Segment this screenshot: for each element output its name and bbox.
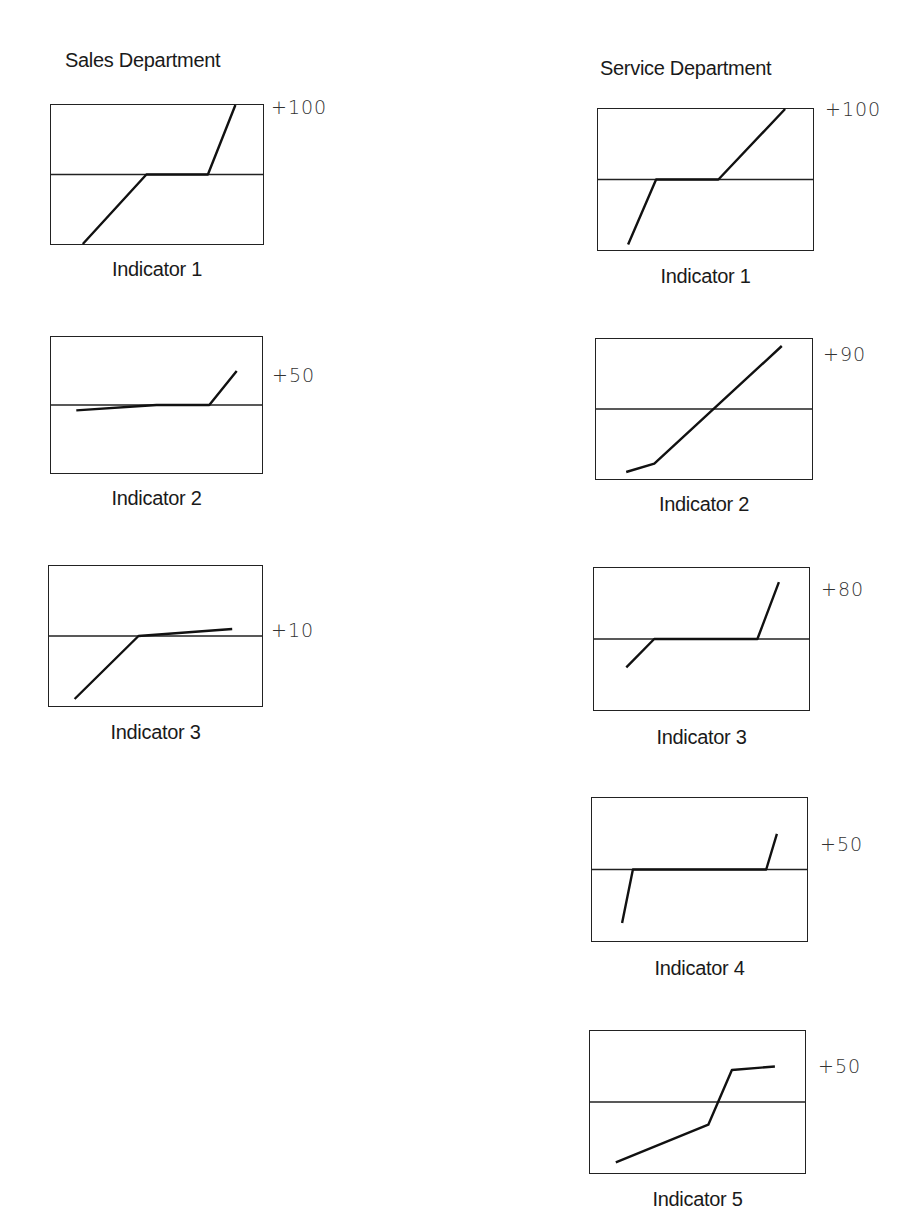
- sales-indicator-1-chart: [50, 104, 264, 245]
- line-chart-plot: [590, 1031, 805, 1173]
- sales-indicator-2-chart: [50, 336, 263, 474]
- sales-indicator-1-max-label: +100: [271, 96, 327, 118]
- line-chart-plot: [592, 798, 807, 941]
- service-indicator-2-label: Indicator 2: [595, 493, 813, 516]
- line-chart-plot: [594, 568, 809, 710]
- service-indicator-4-label: Indicator 4: [591, 957, 808, 980]
- trend-line: [75, 629, 233, 699]
- sales-indicator-3-chart: [48, 565, 263, 707]
- service-indicator-3-label: Indicator 3: [593, 726, 810, 749]
- sales-department-title: Sales Department: [65, 49, 220, 72]
- trend-line: [626, 582, 779, 667]
- service-indicator-3-max-label: +80: [821, 578, 864, 600]
- service-indicator-2-max-label: +90: [823, 343, 866, 365]
- line-chart-plot: [598, 109, 813, 250]
- trend-line: [622, 834, 777, 923]
- service-indicator-1-max-label: +100: [825, 98, 881, 120]
- sales-indicator-2-max-label: +50: [272, 364, 315, 386]
- sales-indicator-3-label: Indicator 3: [48, 721, 263, 744]
- sales-indicator-3-max-label: +10: [271, 619, 314, 641]
- trend-line: [628, 109, 785, 244]
- service-department-title: Service Department: [600, 57, 771, 80]
- sales-indicator-2-label: Indicator 2: [50, 487, 263, 510]
- service-indicator-3-chart: [593, 567, 810, 711]
- service-indicator-1-chart: [597, 108, 814, 251]
- sales-indicator-1-label: Indicator 1: [50, 258, 264, 281]
- service-indicator-5-chart: [589, 1030, 806, 1174]
- service-indicator-5-label: Indicator 5: [589, 1188, 806, 1211]
- line-chart-plot: [596, 339, 812, 479]
- line-chart-plot: [49, 566, 262, 706]
- service-indicator-1-label: Indicator 1: [597, 265, 814, 288]
- service-indicator-4-max-label: +50: [820, 833, 863, 855]
- service-indicator-5-max-label: +50: [818, 1055, 861, 1077]
- trend-line: [616, 1067, 775, 1163]
- service-indicator-2-chart: [595, 338, 813, 480]
- service-indicator-4-chart: [591, 797, 808, 942]
- line-chart-plot: [51, 337, 262, 473]
- line-chart-plot: [51, 105, 263, 244]
